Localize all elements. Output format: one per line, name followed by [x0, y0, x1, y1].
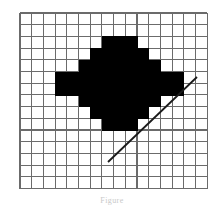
- raster-pixel: [149, 95, 161, 107]
- raster-pixel: [137, 60, 149, 72]
- raster-pixel: [149, 72, 161, 84]
- raster-grid-figure: [0, 0, 224, 206]
- raster-pixel: [125, 48, 137, 60]
- raster-pixel: [125, 60, 137, 72]
- raster-pixel: [125, 118, 137, 130]
- raster-pixel: [137, 107, 149, 119]
- raster-pixel: [149, 60, 161, 72]
- raster-pixel: [79, 83, 91, 95]
- figure-caption: Figure: [0, 196, 224, 206]
- raster-pixel: [172, 72, 184, 84]
- raster-pixel: [90, 48, 102, 60]
- raster-pixel: [125, 107, 137, 119]
- raster-pixel: [114, 60, 126, 72]
- raster-pixel: [114, 48, 126, 60]
- raster-pixel: [137, 72, 149, 84]
- raster-pixel: [125, 72, 137, 84]
- raster-pixel: [102, 36, 114, 48]
- raster-pixel: [102, 107, 114, 119]
- raster-pixel: [160, 72, 172, 84]
- raster-pixel: [79, 72, 91, 84]
- raster-pixel: [55, 83, 67, 95]
- raster-pixel: [137, 95, 149, 107]
- raster-pixel: [102, 72, 114, 84]
- raster-pixel: [114, 118, 126, 130]
- raster-pixel: [114, 83, 126, 95]
- raster-pixel: [102, 83, 114, 95]
- raster-pixel: [102, 118, 114, 130]
- raster-pixel: [160, 83, 172, 95]
- raster-pixel: [172, 83, 184, 95]
- raster-pixel: [79, 60, 91, 72]
- raster-pixel: [67, 72, 79, 84]
- raster-pixel: [125, 36, 137, 48]
- raster-pixel: [102, 60, 114, 72]
- raster-pixel: [90, 60, 102, 72]
- raster-pixel: [55, 72, 67, 84]
- raster-pixel: [102, 48, 114, 60]
- raster-pixel: [102, 95, 114, 107]
- raster-pixel: [90, 95, 102, 107]
- raster-pixel: [114, 36, 126, 48]
- raster-pixel: [79, 95, 91, 107]
- raster-pixel: [149, 83, 161, 95]
- raster-pixel: [90, 83, 102, 95]
- raster-pixel: [114, 72, 126, 84]
- raster-pixel: [137, 83, 149, 95]
- raster-pixel: [90, 107, 102, 119]
- raster-pixel: [125, 83, 137, 95]
- raster-pixel: [137, 48, 149, 60]
- raster-pixel: [114, 107, 126, 119]
- figure-container: Figure: [0, 0, 224, 206]
- raster-pixel: [125, 95, 137, 107]
- raster-pixel: [67, 83, 79, 95]
- raster-pixel: [114, 95, 126, 107]
- raster-pixel: [90, 72, 102, 84]
